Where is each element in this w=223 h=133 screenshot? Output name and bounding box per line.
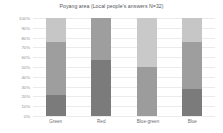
bar-segment-medium[interactable] [182,42,202,89]
y-axis-tick-label: 80% [21,35,30,40]
bar-group[interactable]: Blue [182,18,202,116]
y-axis-tick-label: 30% [21,84,30,89]
stacked-bar[interactable] [91,18,111,116]
bar-segment-medium[interactable] [46,42,66,96]
chart-title: Poyang area (Local people's answers N=32… [0,3,223,10]
y-axis-tick-label: 0% [24,114,30,119]
bar-segment-medium[interactable] [137,67,157,116]
y-axis-tick-label: 70% [21,45,30,50]
y-axis-tick-label: 20% [21,94,30,99]
chart-container: Poyang area (Local people's answers N=32… [0,0,223,133]
y-axis-tick-label: 10% [21,104,30,109]
bar-group[interactable]: Blue-green [137,18,157,116]
bar-group[interactable]: Green [46,18,66,116]
y-axis-tick-label: 50% [21,65,30,70]
bar-segment-dark[interactable] [46,95,66,116]
x-axis-label: Red [91,119,111,125]
stacked-bar[interactable] [46,18,66,116]
y-axis-tick-label: 40% [21,74,30,79]
bar-group[interactable]: Red [91,18,111,116]
y-axis-tick-label: 100% [19,16,30,21]
x-axis-label: Green [46,119,66,125]
y-axis-tick-label: 90% [21,25,30,30]
y-axis: 100%90%80%70%60%50%40%30%20%10%0% [8,18,32,116]
bar-segment-light[interactable] [137,18,157,67]
stacked-bar[interactable] [137,18,157,116]
bar-segment-light[interactable] [46,18,66,42]
bar-segment-light[interactable] [182,18,202,42]
x-axis-label: Blue-green [137,119,157,125]
gridline [33,116,215,117]
bar-segment-medium[interactable] [91,18,111,60]
bar-segment-dark[interactable] [91,60,111,116]
y-axis-tick-label: 60% [21,55,30,60]
stacked-bar[interactable] [182,18,202,116]
x-axis-label: Blue [182,119,202,125]
bar-segment-dark[interactable] [182,89,202,116]
plot-area: GreenRedBlue-greenBlue [33,18,215,116]
